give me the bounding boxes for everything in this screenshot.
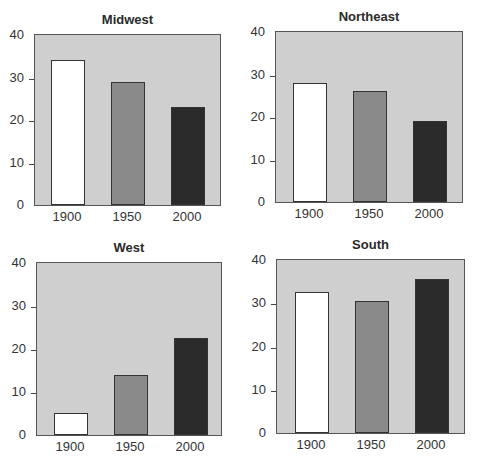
x-tick-label: 1900 bbox=[42, 209, 92, 224]
y-tick-mark bbox=[270, 76, 275, 77]
y-tick-label: 10 bbox=[0, 155, 24, 170]
y-tick-mark bbox=[271, 348, 276, 349]
y-tick-label: 40 bbox=[242, 252, 266, 267]
bar-2000 bbox=[415, 279, 449, 433]
y-tick-label: 20 bbox=[0, 112, 24, 127]
y-tick-label: 10 bbox=[241, 152, 265, 167]
y-tick-label: 10 bbox=[2, 384, 26, 399]
y-tick-label: 0 bbox=[241, 194, 265, 209]
y-tick-mark bbox=[29, 121, 34, 122]
y-tick-label: 30 bbox=[0, 70, 24, 85]
y-tick-label: 40 bbox=[241, 24, 265, 39]
chart-title: West bbox=[36, 240, 222, 255]
x-tick-label: 1900 bbox=[284, 206, 334, 221]
bar-1900 bbox=[54, 413, 88, 435]
x-tick-label: 2000 bbox=[162, 209, 212, 224]
y-tick-mark bbox=[31, 350, 36, 351]
bar-1950 bbox=[111, 82, 145, 205]
y-tick-mark bbox=[31, 307, 36, 308]
bar-2000 bbox=[413, 121, 447, 202]
y-tick-label: 0 bbox=[242, 425, 266, 440]
plot-area bbox=[34, 34, 221, 206]
y-tick-label: 0 bbox=[2, 427, 26, 442]
x-tick-label: 1950 bbox=[344, 206, 394, 221]
y-tick-label: 20 bbox=[241, 109, 265, 124]
chart-title: Midwest bbox=[34, 12, 221, 27]
y-tick-mark bbox=[270, 118, 275, 119]
x-tick-label: 2000 bbox=[406, 437, 456, 452]
y-tick-mark bbox=[31, 393, 36, 394]
plot-area bbox=[275, 31, 463, 203]
y-tick-label: 30 bbox=[2, 298, 26, 313]
y-tick-label: 20 bbox=[2, 341, 26, 356]
y-tick-label: 40 bbox=[0, 27, 24, 42]
plot-area bbox=[276, 259, 465, 434]
x-tick-label: 1950 bbox=[102, 209, 152, 224]
chart-title: Northeast bbox=[275, 9, 463, 24]
plot-area bbox=[36, 262, 222, 436]
y-tick-mark bbox=[29, 164, 34, 165]
bar-2000 bbox=[174, 338, 208, 435]
x-tick-label: 2000 bbox=[404, 206, 454, 221]
y-tick-label: 30 bbox=[242, 295, 266, 310]
y-tick-label: 0 bbox=[0, 197, 24, 212]
bar-2000 bbox=[171, 107, 205, 205]
chart-title: South bbox=[276, 237, 465, 252]
y-tick-label: 10 bbox=[242, 382, 266, 397]
x-tick-label: 1950 bbox=[105, 439, 155, 454]
y-tick-mark bbox=[270, 161, 275, 162]
y-tick-label: 20 bbox=[242, 339, 266, 354]
x-tick-label: 1900 bbox=[286, 437, 336, 452]
bar-1950 bbox=[114, 375, 148, 435]
y-tick-mark bbox=[271, 304, 276, 305]
bar-1950 bbox=[355, 301, 389, 433]
y-tick-mark bbox=[271, 391, 276, 392]
x-tick-label: 2000 bbox=[165, 439, 215, 454]
x-tick-label: 1900 bbox=[45, 439, 95, 454]
x-tick-label: 1950 bbox=[346, 437, 396, 452]
bar-1900 bbox=[51, 60, 85, 205]
bar-1900 bbox=[293, 83, 327, 202]
bar-1950 bbox=[353, 91, 387, 202]
y-tick-label: 40 bbox=[2, 255, 26, 270]
bar-1900 bbox=[295, 292, 329, 433]
y-tick-mark bbox=[29, 79, 34, 80]
y-tick-label: 30 bbox=[241, 67, 265, 82]
